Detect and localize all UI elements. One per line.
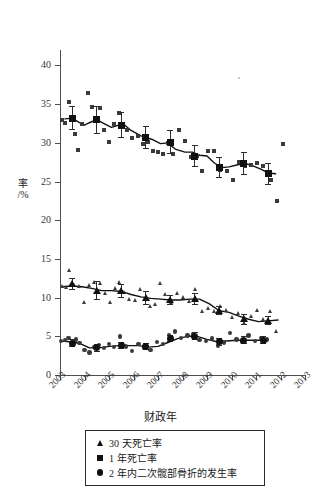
annual-mean-point xyxy=(118,122,125,129)
y-tick-label-35: 35 xyxy=(41,97,51,110)
annual-mean-point xyxy=(265,170,272,177)
annual-mean-point xyxy=(191,333,198,340)
data-point xyxy=(200,309,204,313)
annual-mean-point xyxy=(240,337,247,344)
data-point xyxy=(158,281,162,285)
circle-marker-icon xyxy=(94,469,106,475)
y-tick-label-30: 30 xyxy=(41,136,51,149)
data-point xyxy=(231,178,235,182)
data-point xyxy=(76,148,80,152)
y-axis-title: 率 /% xyxy=(14,178,32,200)
data-point xyxy=(281,142,285,146)
annual-mean-point xyxy=(215,307,223,314)
data-point xyxy=(193,287,197,291)
trend-line-group xyxy=(60,50,305,375)
data-point xyxy=(224,308,228,312)
data-point xyxy=(133,298,137,302)
annual-mean-point xyxy=(93,287,101,294)
annual-mean-point xyxy=(142,294,150,301)
annual-mean-point xyxy=(240,315,248,322)
data-point xyxy=(249,314,253,318)
data-point xyxy=(204,339,208,343)
y-tick-label-10: 10 xyxy=(41,291,51,304)
data-point xyxy=(113,286,117,290)
data-point xyxy=(155,340,159,344)
y-tick-label-25: 25 xyxy=(41,175,51,188)
annual-mean-point xyxy=(216,164,223,171)
data-point xyxy=(67,100,71,104)
legend-item-refracture: 2 年内二次髋部骨折的发生率 xyxy=(94,465,256,480)
annual-mean-point xyxy=(191,153,198,160)
data-point xyxy=(153,302,157,306)
data-point xyxy=(261,164,265,168)
data-point xyxy=(67,268,71,272)
data-point xyxy=(249,163,253,167)
annual-mean-point xyxy=(68,280,76,287)
data-point xyxy=(156,150,160,154)
annual-mean-point xyxy=(69,115,76,122)
data-point xyxy=(274,329,278,333)
data-point xyxy=(206,306,210,310)
data-point xyxy=(246,333,250,337)
data-point xyxy=(185,333,189,337)
data-point xyxy=(177,128,181,132)
data-point xyxy=(212,149,216,153)
data-point xyxy=(107,140,111,144)
data-point xyxy=(82,300,86,304)
data-point xyxy=(86,91,90,95)
data-point xyxy=(103,291,107,295)
data-point xyxy=(255,308,259,312)
data-point xyxy=(268,309,272,313)
data-point xyxy=(125,128,129,132)
data-point xyxy=(130,136,134,140)
data-point xyxy=(118,334,122,338)
legend-label-30-day: 30 天死亡率 xyxy=(109,435,162,450)
data-point xyxy=(138,287,142,291)
data-point xyxy=(275,199,279,203)
annual-mean-point xyxy=(240,160,247,167)
data-point xyxy=(225,169,229,173)
data-point xyxy=(73,132,77,136)
square-marker-icon xyxy=(94,455,106,461)
y-tick-label-15: 15 xyxy=(41,252,51,265)
annual-mean-point xyxy=(216,338,223,345)
data-point xyxy=(77,284,81,288)
data-point xyxy=(206,149,210,153)
data-point xyxy=(87,350,91,354)
data-point xyxy=(255,161,259,165)
y-axis-title-text: 率 /% xyxy=(14,178,32,200)
data-point xyxy=(108,300,112,304)
y-tick-label-20: 20 xyxy=(41,213,51,226)
data-point xyxy=(200,169,204,173)
annual-mean-point xyxy=(69,340,76,347)
data-point xyxy=(161,152,165,156)
data-point xyxy=(175,291,179,295)
data-point xyxy=(181,295,185,299)
legend-item-30-day: 30 天死亡率 xyxy=(94,435,256,450)
annual-mean-point xyxy=(264,317,272,324)
annual-mean-point xyxy=(117,287,125,294)
plot-area: 0510152025303540 20032004200520062007200… xyxy=(60,50,305,375)
artifact-speck xyxy=(238,77,240,79)
annual-mean-point xyxy=(93,116,100,123)
data-point xyxy=(151,149,155,153)
annual-mean-point xyxy=(167,139,174,146)
annual-mean-point xyxy=(166,296,174,303)
annual-mean-point xyxy=(191,295,199,302)
data-point xyxy=(87,283,91,287)
data-point xyxy=(64,285,68,289)
legend: 30 天死亡率 1 年死亡率 2 年内二次髋部骨折的发生率 xyxy=(85,430,265,486)
data-point xyxy=(80,122,84,126)
data-point xyxy=(127,297,131,301)
annual-mean-point xyxy=(260,337,267,344)
triangle-marker-icon xyxy=(94,440,106,446)
annual-mean-point xyxy=(118,342,125,349)
data-point xyxy=(183,139,187,143)
annual-mean-point xyxy=(167,335,174,342)
data-point xyxy=(136,342,140,346)
y-tick-label-40: 40 xyxy=(41,58,51,71)
data-point xyxy=(253,339,257,343)
data-point xyxy=(136,134,140,138)
legend-label-1-year: 1 年死亡率 xyxy=(109,450,157,465)
data-point xyxy=(230,315,234,319)
